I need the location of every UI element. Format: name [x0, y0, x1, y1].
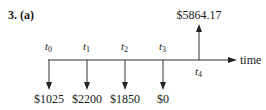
time-subscript: 4 — [198, 70, 202, 79]
time-point-t4: t4$5864.17 — [177, 8, 222, 79]
arrow-down-icon — [122, 82, 128, 90]
problem-heading: 3. (a) — [8, 8, 34, 22]
time-point-t3: t3$0 — [157, 40, 169, 106]
time-axis-label: time — [240, 53, 261, 67]
cash-flow-amount: $5864.17 — [177, 8, 222, 22]
time-subscript: 3 — [162, 45, 166, 54]
arrow-down-icon — [84, 82, 90, 90]
cash-flow-amount: $2200 — [72, 92, 102, 106]
time-subscript: 1 — [86, 45, 90, 54]
arrow-down-icon — [46, 82, 52, 90]
arrow-down-icon — [160, 82, 166, 90]
time-point-t1: t1$2200 — [72, 40, 102, 106]
time-label: t2 — [121, 40, 128, 54]
cash-flow-timeline-diagram: 3. (a) time t0$1025t1$2200t2$1850t3$0t4$… — [0, 0, 266, 110]
time-label: t1 — [83, 40, 90, 54]
time-label: t0 — [45, 40, 52, 54]
cash-flow-amount: $1025 — [34, 92, 64, 106]
time-label: t4 — [195, 65, 202, 79]
time-subscript: 0 — [48, 45, 52, 54]
time-label: t3 — [159, 40, 166, 54]
time-points: t0$1025t1$2200t2$1850t3$0t4$5864.17 — [34, 8, 222, 106]
time-subscript: 2 — [124, 45, 128, 54]
cash-flow-amount: $0 — [157, 92, 169, 106]
time-point-t0: t0$1025 — [34, 40, 64, 106]
arrow-up-icon — [196, 24, 202, 32]
time-axis-arrowhead-icon — [228, 57, 237, 63]
cash-flow-amount: $1850 — [110, 92, 140, 106]
time-point-t2: t2$1850 — [110, 40, 140, 106]
